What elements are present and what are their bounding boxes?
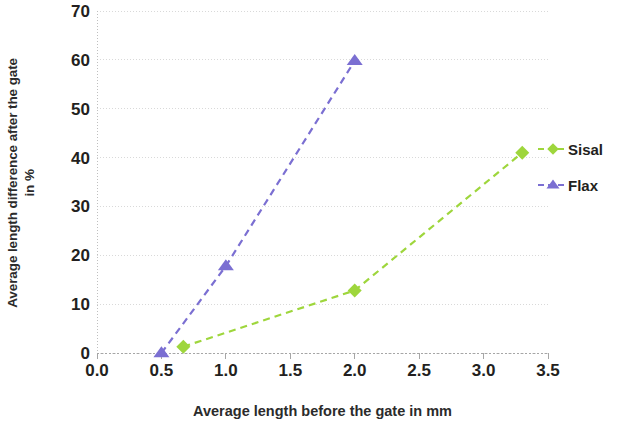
plot-area — [97, 11, 548, 353]
series-markers — [153, 54, 529, 357]
y-axis-tick-label: 70 — [50, 3, 90, 20]
x-axis-tick-label: 2.0 — [320, 362, 390, 379]
diamond-icon — [538, 140, 568, 158]
x-axis-tick-label: 0.5 — [126, 362, 196, 379]
x-axis-tick-label: 2.5 — [384, 362, 454, 379]
y-axis-title: Average length difference after the gate… — [0, 0, 44, 366]
y-axis-tick-label: 60 — [50, 51, 90, 68]
x-axis-tick-label: 3.0 — [449, 362, 519, 379]
y-axis-tick-label: 50 — [50, 100, 90, 117]
legend-label: Flax — [568, 178, 598, 193]
y-axis-tick-label: 20 — [50, 247, 90, 264]
x-axis-tick-labels: 0.00.51.01.52.02.53.03.5 — [0, 362, 620, 388]
x-axis-tick-label: 3.5 — [513, 362, 583, 379]
x-axis-title: Average length before the gate in mm — [97, 404, 548, 419]
legend-item-sisal[interactable]: Sisal — [556, 131, 620, 167]
y-axis-tick-label: 30 — [50, 198, 90, 215]
legend-item-flax[interactable]: Flax — [556, 167, 620, 203]
triangle-icon — [538, 176, 568, 194]
x-axis-tick-label: 1.0 — [191, 362, 261, 379]
y-axis-tick-label: 0 — [50, 345, 90, 362]
y-axis-tick-label: 10 — [50, 296, 90, 313]
chart-legend: SisalFlax — [556, 131, 620, 203]
x-axis-tick-label: 1.5 — [255, 362, 325, 379]
x-axis-tick-label: 0.0 — [62, 362, 132, 379]
y-axis-tick-label: 40 — [50, 149, 90, 166]
y-axis-title-line1: Average length difference after the gate — [5, 58, 20, 308]
legend-label: Sisal — [568, 142, 603, 157]
y-axis-title-line2: in % — [22, 58, 39, 308]
series-lines — [161, 61, 522, 353]
plot-svg — [97, 11, 548, 353]
chart-container: Average length difference after the gate… — [0, 0, 620, 432]
